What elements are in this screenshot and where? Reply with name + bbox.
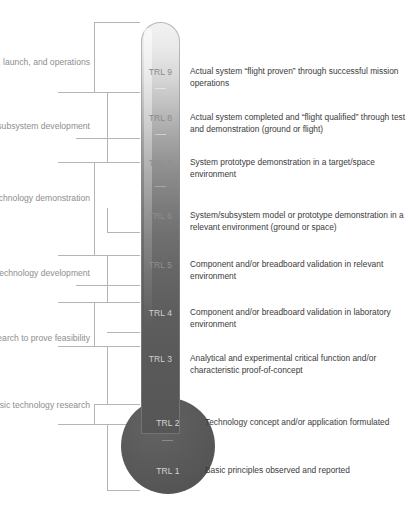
bracket-line — [107, 424, 108, 490]
bracket-line — [107, 490, 140, 491]
trl-label-6: TRL 6 — [141, 211, 180, 221]
category-label-tech-development: Technology development — [0, 268, 90, 280]
bracket-line — [94, 302, 140, 303]
bracket-line — [107, 92, 140, 93]
trl-label-3: TRL 3 — [141, 354, 180, 364]
bracket-line — [107, 208, 108, 232]
trl-divider-dash — [155, 134, 166, 135]
category-label-tech-demonstration: Technology demonstration — [0, 193, 90, 205]
trl-description-8: Actual system completed and “flight qual… — [190, 112, 412, 135]
thermometer-tube — [141, 22, 180, 434]
category-label-research-feasibility: Research to prove feasibility — [0, 333, 90, 345]
trl-label-9: TRL 9 — [141, 67, 180, 77]
trl-label-7: TRL 7 — [141, 158, 180, 168]
category-label-basic-research: Basic technology research — [0, 400, 90, 412]
trl-thermometer-diagram: TRL 9 TRL 8 TRL 7 TRL 6 TRL 5 TRL 4 TRL … — [0, 0, 417, 516]
trl-label-1: TRL 1 — [121, 466, 215, 476]
trl-label-2: TRL 2 — [121, 418, 215, 428]
trl-divider-dash — [155, 88, 166, 89]
bracket-line — [94, 22, 95, 92]
trl-description-6: System/subsystem model or prototype demo… — [190, 210, 412, 233]
trl-label-4: TRL 4 — [141, 308, 180, 318]
trl-description-5: Component and/or breadboard validation i… — [190, 259, 412, 282]
trl-description-7: System prototype demonstration in a targ… — [190, 157, 412, 180]
category-label-system-subsystem: System/subsystem development — [0, 121, 90, 133]
bracket-line — [94, 302, 95, 346]
bracket-line — [94, 232, 95, 255]
bracket-line — [107, 255, 108, 285]
bracket-line — [107, 285, 108, 302]
trl-description-9: Actual system “flight proven” through su… — [190, 66, 412, 89]
trl-description-3: Analytical and experimental critical fun… — [190, 353, 412, 376]
bracket-line — [94, 162, 95, 232]
trl-label-8: TRL 8 — [141, 113, 180, 123]
bracket-line — [107, 232, 140, 233]
category-label-system-test: System test, launch, and operations — [0, 57, 90, 69]
bracket-line — [76, 285, 140, 286]
bracket-line — [107, 346, 140, 347]
bracket-line — [107, 255, 140, 256]
bracket-line — [94, 162, 140, 163]
bracket-line — [107, 346, 108, 404]
trl-divider-dash — [155, 186, 166, 187]
bracket-line — [107, 92, 108, 138]
trl-divider-dash — [162, 440, 173, 441]
bracket-line — [94, 404, 140, 405]
bracket-line — [94, 404, 95, 424]
bracket-line — [76, 138, 140, 139]
trl-description-4: Component and/or breadboard validation i… — [190, 307, 412, 330]
bracket-line — [107, 332, 140, 333]
bracket-line — [107, 138, 108, 162]
trl-description-1: Basic principles observed and reported — [205, 465, 417, 477]
trl-label-5: TRL 5 — [141, 260, 180, 270]
bracket-line — [94, 22, 140, 23]
trl-description-2: Technology concept and/or application fo… — [205, 417, 417, 429]
